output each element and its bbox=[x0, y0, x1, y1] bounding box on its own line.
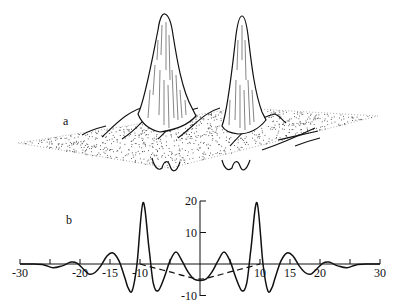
surface-plane bbox=[18, 108, 378, 168]
y-tick-label: 10 bbox=[185, 226, 197, 240]
surface-peak-left bbox=[138, 14, 196, 132]
x-tick-label: -30 bbox=[12, 266, 28, 280]
x-tick-label: -20 bbox=[72, 266, 88, 280]
surface-dip-right bbox=[222, 160, 250, 170]
panel-a-label: a bbox=[63, 114, 69, 128]
y-axis-ticks: -101020 bbox=[181, 194, 206, 303]
x-tick-label: 30 bbox=[374, 266, 386, 280]
x-tick-label: 15 bbox=[284, 266, 296, 280]
surface-peak-right bbox=[222, 16, 266, 134]
panel-b-line-plot: b -30-20-15-1010152030 -101020 bbox=[12, 194, 386, 303]
surface-ripples bbox=[82, 106, 320, 150]
x-tick-label: -15 bbox=[102, 266, 118, 280]
y-tick-label: 20 bbox=[185, 194, 197, 208]
y-tick-label: -10 bbox=[181, 289, 197, 303]
figure: a b -30-20-15-1010152030 -101020 bbox=[0, 0, 395, 308]
x-tick-label: 20 bbox=[314, 266, 326, 280]
panel-b-label: b bbox=[66, 213, 72, 227]
surface-dip-left bbox=[152, 158, 180, 171]
panel-a-surface-plot: a bbox=[18, 14, 378, 171]
